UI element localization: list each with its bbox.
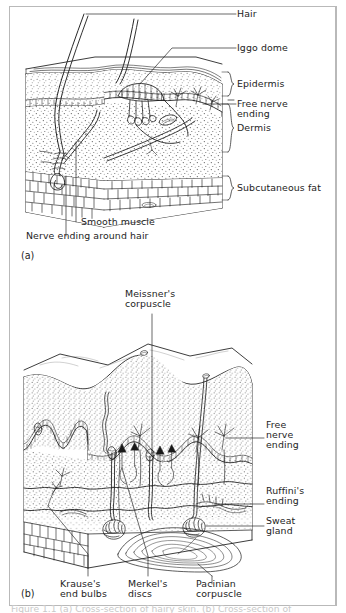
label-merkel-line2: discs	[128, 589, 152, 600]
label-subcutaneous-fat: Subcutaneous fat	[237, 183, 321, 194]
figure-caption: Figure 1.1 (a) Cross-section of hairy sk…	[11, 604, 341, 613]
label-hair: Hair	[237, 9, 257, 20]
label-epidermis: Epidermis	[237, 79, 284, 90]
panel-b: Meissner's corpuscle Free nerve ending R…	[0, 272, 346, 602]
panel-b-artwork	[0, 272, 346, 602]
panel-a-id: (a)	[21, 250, 34, 261]
label-sweat-gland-line2: gland	[266, 526, 293, 537]
label-nerve-ending-around-hair: Nerve ending around hair	[26, 231, 149, 242]
label-pacinian-line2: corpuscle	[196, 589, 242, 600]
label-free-nerve-ending-line2: ending	[237, 109, 270, 120]
label-dermis: Dermis	[237, 123, 271, 134]
label-meissner-line2: corpuscle	[125, 299, 171, 310]
label-krause-line2: end bulbs	[60, 589, 107, 600]
label-free-nerve-line3: ending	[266, 440, 299, 451]
label-iggo-dome: Iggo dome	[237, 43, 288, 54]
panel-a: Hair Iggo dome Epidermis Free nerve endi…	[0, 0, 346, 272]
label-ruffini-line2: ending	[266, 496, 299, 507]
panel-b-id: (b)	[21, 588, 35, 599]
label-smooth-muscle: Smooth muscle	[81, 217, 155, 228]
figure-page: Hair Iggo dome Epidermis Free nerve endi…	[0, 0, 346, 613]
